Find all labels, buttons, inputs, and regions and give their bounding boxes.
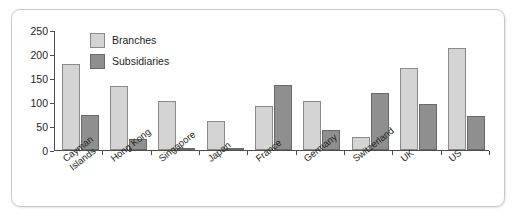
y-axis-tick-label: 100 (30, 97, 48, 109)
legend-label: Subsidiaries (112, 55, 169, 67)
y-axis-tick-label: 50 (36, 121, 48, 133)
y-axis-tick-mark (50, 151, 54, 152)
x-axis-tick-mark (392, 151, 393, 155)
bar-branches (62, 64, 80, 150)
x-axis-tick-mark (441, 151, 442, 155)
y-axis-tick-label: 200 (30, 49, 48, 61)
y-axis-tick-mark (50, 103, 54, 104)
bar-group (255, 30, 292, 150)
bar-group (400, 30, 437, 150)
y-axis-tick-label: 150 (30, 73, 48, 85)
y-axis-tick-mark (50, 127, 54, 128)
y-axis-tick-label: 250 (30, 25, 48, 37)
legend-swatch-subsidiaries (90, 54, 105, 69)
y-axis-tick-label: 0 (42, 145, 48, 157)
legend-item: Subsidiaries (90, 52, 169, 70)
chart-legend: BranchesSubsidiaries (90, 31, 169, 73)
x-axis-tick-mark (296, 151, 297, 155)
legend-swatch-branches (90, 33, 105, 48)
bar-group (303, 30, 340, 150)
y-axis-tick-mark (50, 79, 54, 80)
x-axis-tick-mark (151, 151, 152, 155)
chart-frame: 050100150200250 CaymanIslandsHong KongSi… (11, 9, 505, 207)
bar-branches (448, 48, 466, 150)
x-axis-tick-mark (247, 151, 248, 155)
y-axis-line (54, 31, 55, 151)
x-axis-tick-mark (199, 151, 200, 155)
bar-subsidiaries (419, 104, 437, 150)
bar-chart: 050100150200250 CaymanIslandsHong KongSi… (12, 10, 506, 208)
y-axis-tick-mark (50, 55, 54, 56)
x-axis-tick-mark (344, 151, 345, 155)
legend-item: Branches (90, 31, 169, 49)
legend-label: Branches (112, 34, 156, 46)
x-axis-tick-mark (102, 151, 103, 155)
bar-branches (400, 68, 418, 150)
bar-group (448, 30, 485, 150)
x-axis-tick-mark (489, 151, 490, 155)
y-axis-tick-mark (50, 31, 54, 32)
bar-subsidiaries (467, 116, 485, 150)
bar-group (207, 30, 244, 150)
